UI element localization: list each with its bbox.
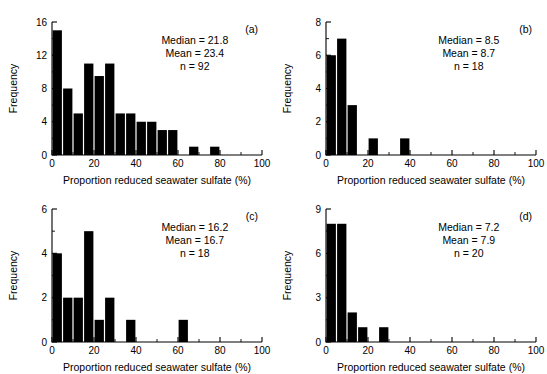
y-tick-label: 9 — [315, 204, 321, 215]
x-tick-label: 80 — [214, 158, 226, 169]
x-tick-label: 0 — [49, 345, 55, 356]
histogram-bar — [74, 298, 83, 342]
axis-lines — [326, 22, 536, 155]
histogram-bar — [337, 39, 346, 155]
histogram-bar — [358, 327, 367, 342]
x-tick-label: 100 — [528, 158, 545, 169]
mean-annotation: Mean = 23.4 — [165, 47, 224, 59]
histogram-bar — [348, 105, 357, 155]
panel-letter-label: (a) — [245, 23, 258, 35]
y-tick-label: 8 — [41, 83, 47, 94]
panel-letter-label: (d) — [519, 210, 532, 222]
median-annotation: Median = 7.2 — [438, 221, 499, 233]
y-axis-title: Frequency — [7, 63, 19, 113]
mean-annotation: Mean = 7.9 — [442, 234, 495, 246]
sample-size-annotation: n = 18 — [180, 247, 210, 259]
histogram-bar — [158, 130, 167, 155]
sample-size-annotation: n = 18 — [454, 60, 484, 72]
x-tick-label: 60 — [172, 158, 184, 169]
figure-canvas: 0204060801000481216Proportion reduced se… — [0, 0, 547, 374]
x-tick-label: 60 — [446, 158, 458, 169]
bars-group — [327, 39, 410, 155]
panel-d: 0204060801000369Proportion reduced seawa… — [274, 187, 547, 374]
axes-group — [326, 209, 536, 342]
y-tick-label: 6 — [41, 204, 47, 215]
x-axis-title: Proportion reduced seawater sulfate (%) — [63, 361, 251, 373]
x-tick-label: 40 — [404, 158, 416, 169]
histogram-bar — [116, 113, 125, 155]
y-tick-label: 2 — [315, 116, 321, 127]
axis-lines — [52, 209, 262, 342]
axes-group — [52, 22, 262, 155]
histogram-bar — [147, 122, 156, 155]
x-tick-label: 20 — [362, 158, 374, 169]
histogram-bar — [348, 312, 357, 342]
y-tick-label: 0 — [41, 337, 47, 348]
y-axis-title: Frequency — [7, 250, 19, 300]
panel-a-plot: 0204060801000481216Proportion reduced se… — [0, 0, 273, 187]
x-tick-label: 40 — [130, 158, 142, 169]
histogram-bar — [95, 320, 104, 342]
x-tick-label: 20 — [88, 345, 100, 356]
panel-b: 02040608010002468Proportion reduced seaw… — [274, 0, 547, 187]
y-tick-label: 3 — [315, 292, 321, 303]
histogram-bar — [53, 30, 62, 155]
histogram-bar — [74, 113, 83, 155]
histogram-bar — [210, 147, 219, 155]
y-tick-label: 6 — [315, 248, 321, 259]
y-tick-label: 4 — [41, 116, 47, 127]
histogram-bar — [63, 298, 72, 342]
histogram-bar — [400, 138, 409, 155]
y-tick-label: 4 — [315, 83, 321, 94]
axis-lines — [326, 209, 536, 342]
x-tick-label: 40 — [130, 345, 142, 356]
histogram-bar — [126, 113, 135, 155]
x-tick-label: 80 — [214, 345, 226, 356]
y-axis-title: Frequency — [281, 63, 293, 113]
y-tick-label: 0 — [315, 150, 321, 161]
x-tick-label: 40 — [404, 345, 416, 356]
panel-c-plot: 0204060801000246Proportion reduced seawa… — [0, 187, 273, 374]
panel-b-plot: 02040608010002468Proportion reduced seaw… — [274, 0, 547, 187]
x-axis-title: Proportion reduced seawater sulfate (%) — [63, 174, 251, 186]
histogram-bar — [105, 64, 114, 155]
x-tick-label: 60 — [172, 345, 184, 356]
mean-annotation: Mean = 16.7 — [165, 234, 224, 246]
histogram-bar — [189, 147, 198, 155]
histogram-bar — [95, 76, 104, 155]
x-tick-label: 60 — [446, 345, 458, 356]
x-axis-title: Proportion reduced seawater sulfate (%) — [337, 361, 525, 373]
panel-c: 0204060801000246Proportion reduced seawa… — [0, 187, 273, 374]
sample-size-annotation: n = 92 — [180, 60, 210, 72]
histogram-bar — [327, 224, 336, 342]
bars-group — [53, 231, 188, 342]
y-tick-label: 16 — [36, 17, 48, 28]
histogram-bar — [126, 320, 135, 342]
bars-group — [327, 224, 389, 342]
histogram-bar — [337, 224, 346, 342]
axis-lines — [52, 22, 262, 155]
x-tick-label: 20 — [88, 158, 100, 169]
y-tick-label: 2 — [41, 292, 47, 303]
x-tick-label: 0 — [49, 158, 55, 169]
median-annotation: Median = 21.8 — [161, 34, 228, 46]
x-tick-label: 80 — [488, 158, 500, 169]
x-axis-title: Proportion reduced seawater sulfate (%) — [337, 174, 525, 186]
x-tick-label: 20 — [362, 345, 374, 356]
y-tick-label: 0 — [41, 150, 47, 161]
median-annotation: Median = 16.2 — [161, 221, 228, 233]
histogram-bar — [379, 327, 388, 342]
histogram-bar — [105, 298, 114, 342]
histogram-bar — [179, 320, 188, 342]
x-tick-label: 80 — [488, 345, 500, 356]
histogram-bar — [168, 130, 177, 155]
y-tick-label: 8 — [315, 17, 321, 28]
histogram-bar — [63, 89, 72, 156]
panel-letter-label: (c) — [246, 210, 258, 222]
histogram-bar — [369, 138, 378, 155]
y-axis-title: Frequency — [281, 250, 293, 300]
panel-a: 0204060801000481216Proportion reduced se… — [0, 0, 273, 187]
x-tick-label: 100 — [254, 345, 271, 356]
y-tick-label: 0 — [315, 337, 321, 348]
y-tick-label: 6 — [315, 50, 321, 61]
